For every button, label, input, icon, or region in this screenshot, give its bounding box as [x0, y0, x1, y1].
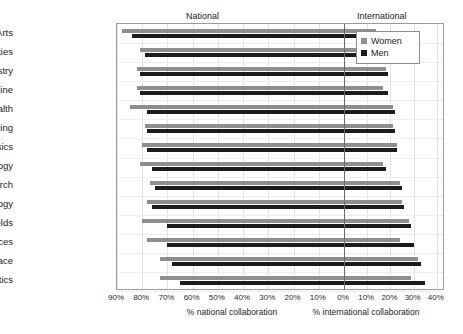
- bar-women-9: [147, 200, 402, 204]
- gridline-row-4: [117, 119, 443, 120]
- category-label-10: Professional fields: [0, 217, 13, 228]
- x-tick-6: 30%: [259, 293, 275, 302]
- gridline-national-10: [319, 24, 320, 289]
- bar-men-12: [172, 262, 420, 266]
- bar-group-11: [117, 238, 443, 248]
- x-tick-4: 50%: [209, 293, 225, 302]
- bar-men-7: [152, 167, 385, 171]
- x-tick-7: 20%: [285, 293, 301, 302]
- category-label-9: Biology: [0, 198, 13, 209]
- bar-men-6: [147, 148, 397, 152]
- bar-group-9: [117, 200, 443, 210]
- gridline-national-90: [117, 24, 118, 289]
- bar-men-4: [147, 110, 395, 114]
- bar-group-2: [117, 67, 443, 77]
- x-tick-11: 20%: [381, 293, 397, 302]
- bar-men-13: [180, 281, 425, 285]
- bar-men-10: [167, 224, 411, 228]
- bar-women-6: [142, 143, 397, 147]
- x-tick-5: 40%: [234, 293, 250, 302]
- collaboration-butterfly-chart: National International Women Men % natio…: [0, 0, 463, 334]
- gridline-national-80: [142, 24, 143, 289]
- legend-swatch-women-icon: [361, 38, 367, 44]
- category-label-7: Psychology: [0, 160, 13, 171]
- bar-women-10: [142, 219, 409, 223]
- bar-men-3: [140, 91, 388, 95]
- gridline-row-9: [117, 215, 443, 216]
- x-tick-12: 30%: [405, 293, 421, 302]
- axis-title-international: % international collaboration: [313, 307, 420, 317]
- bar-women-13: [160, 276, 411, 280]
- bar-women-3: [137, 86, 383, 90]
- chart-legend: Women Men: [356, 31, 420, 64]
- bar-women-0: [122, 29, 376, 33]
- gridline-row-5: [117, 138, 443, 139]
- legend-swatch-men-icon: [361, 50, 367, 56]
- bar-group-8: [117, 181, 443, 191]
- gridline-row-7: [117, 177, 443, 178]
- bar-group-4: [117, 105, 443, 115]
- category-label-5: Engineering: [0, 122, 13, 133]
- bar-women-4: [130, 105, 393, 109]
- bar-group-12: [117, 257, 443, 267]
- x-tick-1: 80%: [133, 293, 149, 302]
- bar-women-7: [140, 162, 384, 166]
- legend-label-women: Women: [371, 37, 402, 46]
- gridline-national-70: [167, 24, 168, 289]
- bar-men-9: [152, 205, 404, 209]
- gridline-row-11: [117, 253, 443, 254]
- x-tick-13: 40%: [428, 293, 444, 302]
- category-label-0: Arts: [0, 27, 13, 38]
- bar-men-11: [167, 243, 413, 247]
- x-tick-2: 70%: [158, 293, 174, 302]
- bar-women-12: [160, 257, 418, 261]
- gridline-national-50: [218, 24, 219, 289]
- x-tick-3: 60%: [184, 293, 200, 302]
- bar-group-13: [117, 276, 443, 286]
- bar-women-5: [145, 124, 393, 128]
- category-label-6: Physics: [0, 141, 13, 152]
- x-tick-10: 10%: [358, 293, 374, 302]
- bar-group-7: [117, 162, 443, 172]
- category-label-1: Humanities: [0, 46, 13, 57]
- bar-men-1: [145, 53, 388, 57]
- bar-group-6: [117, 143, 443, 153]
- axis-title-national: % national collaboration: [187, 307, 277, 317]
- gridline-row-6: [117, 158, 443, 159]
- gridline-row-10: [117, 234, 443, 235]
- bar-women-1: [140, 48, 388, 52]
- bar-men-5: [147, 129, 395, 133]
- header-international: International: [357, 11, 407, 21]
- header-national: National: [186, 11, 219, 21]
- gridline-national-20: [294, 24, 295, 289]
- gridline-national-60: [193, 24, 194, 289]
- gridline-row-12: [117, 272, 443, 273]
- bar-men-0: [132, 34, 379, 38]
- legend-item-women: Women: [361, 35, 415, 47]
- bar-group-3: [117, 86, 443, 96]
- bar-women-8: [150, 181, 400, 185]
- x-tick-9: 0%: [337, 293, 349, 302]
- gridline-national-40: [243, 24, 244, 289]
- category-label-8: Biomedical research: [0, 179, 13, 190]
- category-label-4: Health: [0, 103, 13, 114]
- legend-item-men: Men: [361, 47, 415, 59]
- gridline-row-8: [117, 196, 443, 197]
- x-tick-0: 90%: [108, 293, 124, 302]
- zero-axis-line: [344, 24, 345, 289]
- category-label-2: Chemistry: [0, 65, 13, 76]
- category-label-13: Mathematics: [0, 274, 13, 285]
- category-label-11: Social sciences: [0, 236, 13, 247]
- gridline-row-13: [117, 291, 443, 292]
- category-label-12: Earth and space: [0, 255, 13, 266]
- bar-men-8: [155, 186, 402, 190]
- gridline-row-2: [117, 81, 443, 82]
- gridline-row-3: [117, 100, 443, 101]
- category-label-3: Clinical medicine: [0, 84, 13, 95]
- gridline-national-30: [268, 24, 269, 289]
- gridline-international-40: [437, 24, 438, 289]
- x-tick-8: 10%: [310, 293, 326, 302]
- bar-group-10: [117, 219, 443, 229]
- bar-men-2: [140, 72, 388, 76]
- bar-women-2: [137, 67, 386, 71]
